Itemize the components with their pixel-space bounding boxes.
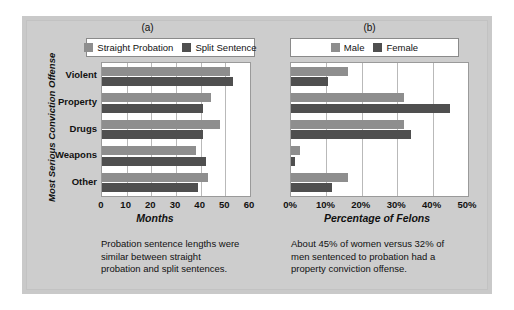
panel-a-title: (a) [40,22,255,33]
bar [102,157,206,166]
bar [102,104,203,113]
bar [102,130,203,139]
legend-item[interactable]: Split Sentence [182,42,256,53]
panel-b-plot-area [290,62,469,197]
x-tick-label: 40% [418,199,446,210]
bar [102,67,230,76]
legend-label: Female [386,42,418,53]
bar [291,104,450,113]
panel-a-caption: Probation sentence lengths were similar … [101,238,241,276]
gridline [433,63,434,196]
bar [291,146,300,155]
bar [102,120,220,129]
figure-root: (a) Most Serious Conviction Offense Stra… [0,0,514,310]
gridline [468,63,469,196]
category-label: Other [40,176,97,187]
panel-a-x-axis-title: Months [80,212,230,224]
category-label: Weapons [40,149,97,160]
category-label: Drugs [40,123,97,134]
legend-item[interactable]: Female [373,42,418,53]
bar [102,93,211,102]
bar [291,173,348,182]
bar [102,183,198,192]
legend-swatch-icon [331,43,340,52]
legend-swatch-icon [182,43,191,52]
bar [291,130,411,139]
bar [102,173,208,182]
bar [291,157,295,166]
bar [291,183,332,192]
x-tick-label: 30% [382,199,410,210]
legend-item[interactable]: Straight Probation [84,42,173,53]
panel-a-legend: Straight ProbationSplit Sentence [86,38,255,57]
x-tick-label: 20% [347,199,375,210]
legend-swatch-icon [84,43,93,52]
x-tick-label: 60 [235,199,263,210]
bar [102,146,196,155]
bar [102,77,233,86]
panel-b-legend: MaleFemale [290,38,459,57]
category-label: Violent [40,69,97,80]
x-tick-label: 0% [276,199,304,210]
bar [291,120,404,129]
x-tick-label: 10% [311,199,339,210]
legend-label: Straight Probation [97,42,173,53]
legend-item[interactable]: Male [331,42,365,53]
gridline [250,63,251,196]
category-label: Property [40,96,97,107]
legend-label: Split Sentence [195,42,256,53]
panel-b-title: (b) [262,22,477,33]
bar [291,67,348,76]
panel-a-plot-area [101,62,251,197]
panel-b-caption: About 45% of women versus 32% of men sen… [291,238,456,276]
chart-panel-b: (b) MaleFemale 0%10%20%30%40%50% Percent… [262,22,477,232]
bar [291,77,328,86]
legend-swatch-icon [373,43,382,52]
chart-panel-a: (a) Most Serious Conviction Offense Stra… [40,22,255,232]
x-tick-label: 50% [453,199,481,210]
legend-label: Male [344,42,365,53]
bar [291,93,404,102]
panel-b-x-axis-title: Percentage of Felons [277,212,477,224]
